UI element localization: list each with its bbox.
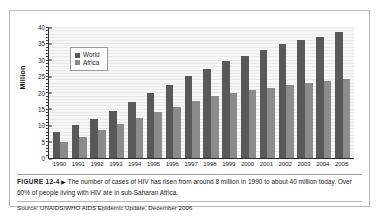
bar-africa-1993 bbox=[117, 124, 125, 158]
x-tick-2000: 2000 bbox=[238, 160, 257, 167]
bar-africa-1994 bbox=[136, 118, 144, 158]
bar-world-2001 bbox=[260, 50, 268, 158]
bar-africa-1998 bbox=[211, 96, 219, 158]
legend-swatch-africa-icon bbox=[75, 60, 80, 65]
legend-item-world: World bbox=[75, 52, 100, 58]
caption-arrow-icon: ▶ bbox=[60, 179, 68, 185]
bar-world-1991 bbox=[72, 125, 80, 158]
source-divider bbox=[17, 201, 362, 202]
x-tick-1998: 1998 bbox=[201, 160, 220, 167]
x-axis-tick-labels: 1990199119921993199419951996199719981999… bbox=[48, 160, 353, 167]
x-tick-2004: 2004 bbox=[313, 160, 332, 167]
bar-world-2002 bbox=[279, 44, 287, 158]
bar-group bbox=[107, 27, 126, 158]
y-tick-15: 15 bbox=[38, 105, 49, 112]
bar-world-2000 bbox=[241, 56, 249, 159]
x-tick-2002: 2002 bbox=[276, 160, 295, 167]
chart-legend: World Africa bbox=[70, 47, 108, 71]
x-tick-2001: 2001 bbox=[257, 160, 276, 167]
y-tick-40: 40 bbox=[38, 24, 49, 31]
y-tick-30: 30 bbox=[38, 56, 49, 63]
legend-label-world: World bbox=[83, 52, 100, 58]
bar-world-1992 bbox=[90, 119, 98, 158]
caption-divider bbox=[17, 174, 362, 175]
y-tick-25: 25 bbox=[38, 73, 49, 80]
bar-africa-2000 bbox=[249, 90, 257, 158]
x-tick-1990: 1990 bbox=[50, 160, 69, 167]
figure-source: Source: UNAIDS/WHO AIDS Epidemic Update,… bbox=[17, 204, 362, 211]
legend-item-africa: Africa bbox=[75, 60, 100, 66]
bar-world-1999 bbox=[222, 61, 230, 158]
bar-world-1996 bbox=[166, 85, 174, 158]
bar-world-1990 bbox=[53, 132, 61, 158]
figure-caption: FIGURE 12-4▶The number of cases of HIV h… bbox=[17, 177, 362, 198]
chart-region: Million 0510152025303540 199019911992199… bbox=[10, 11, 369, 163]
legend-label-africa: Africa bbox=[83, 60, 99, 66]
y-tick-35: 35 bbox=[38, 40, 49, 47]
bar-world-2005 bbox=[335, 32, 343, 158]
bar-world-1994 bbox=[128, 102, 136, 158]
bar-group bbox=[145, 27, 164, 158]
bar-world-1993 bbox=[109, 111, 117, 158]
y-axis-title: Million bbox=[18, 48, 27, 108]
x-tick-2005: 2005 bbox=[332, 160, 351, 167]
bar-group bbox=[277, 27, 296, 158]
bar-africa-1999 bbox=[230, 93, 238, 159]
bar-world-1995 bbox=[147, 93, 155, 159]
bar-africa-2003 bbox=[305, 83, 313, 158]
bar-africa-2004 bbox=[324, 81, 332, 158]
bar-africa-1991 bbox=[79, 137, 87, 158]
bar-group bbox=[202, 27, 221, 158]
bar-group bbox=[126, 27, 145, 158]
legend-swatch-world-icon bbox=[75, 53, 80, 58]
bar-group bbox=[239, 27, 258, 158]
x-tick-1995: 1995 bbox=[144, 160, 163, 167]
bar-africa-1997 bbox=[192, 101, 200, 158]
x-tick-1999: 1999 bbox=[219, 160, 238, 167]
y-tick-10: 10 bbox=[38, 122, 49, 129]
x-tick-1991: 1991 bbox=[69, 160, 88, 167]
bar-group bbox=[296, 27, 315, 158]
caption-text: The number of cases of HIV has risen fro… bbox=[17, 178, 352, 196]
bar-group bbox=[164, 27, 183, 158]
bar-africa-1996 bbox=[173, 107, 181, 158]
figure-number: FIGURE 12-4 bbox=[17, 178, 60, 185]
x-tick-1994: 1994 bbox=[125, 160, 144, 167]
x-tick-2003: 2003 bbox=[295, 160, 314, 167]
bar-group bbox=[258, 27, 277, 158]
bar-world-1998 bbox=[203, 69, 211, 158]
bar-africa-2001 bbox=[267, 88, 275, 158]
x-tick-1996: 1996 bbox=[163, 160, 182, 167]
bar-africa-1995 bbox=[154, 112, 162, 158]
bar-group bbox=[333, 27, 352, 158]
bar-world-2003 bbox=[297, 40, 305, 158]
bar-world-2004 bbox=[316, 37, 324, 158]
bar-africa-1992 bbox=[98, 130, 106, 158]
bar-africa-1990 bbox=[60, 142, 68, 158]
figure-container: Million 0510152025303540 199019911992199… bbox=[9, 10, 370, 207]
x-tick-1992: 1992 bbox=[88, 160, 107, 167]
x-tick-1993: 1993 bbox=[106, 160, 125, 167]
bar-group bbox=[51, 27, 70, 158]
bar-world-1997 bbox=[185, 76, 193, 158]
bar-group bbox=[220, 27, 239, 158]
x-tick-1997: 1997 bbox=[182, 160, 201, 167]
bar-africa-2002 bbox=[286, 85, 294, 158]
bar-group bbox=[314, 27, 333, 158]
y-tick-20: 20 bbox=[38, 89, 49, 96]
y-tick-5: 5 bbox=[41, 138, 49, 145]
bar-group bbox=[183, 27, 202, 158]
bar-africa-2005 bbox=[343, 79, 351, 158]
